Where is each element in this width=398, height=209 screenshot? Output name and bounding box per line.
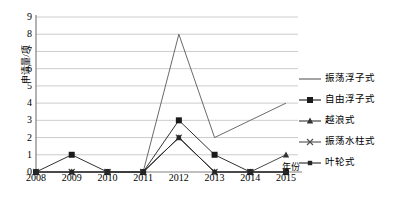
x-tick-label: 2015 <box>269 172 303 184</box>
x-tick-label: 2013 <box>198 172 232 184</box>
x-tick-label: 2010 <box>90 172 124 184</box>
legend-label: 自由浮子式 <box>322 91 375 105</box>
data-point-marker <box>308 160 312 164</box>
legend-label: 叶轮式 <box>322 154 355 168</box>
series-2 <box>33 117 289 175</box>
series-line <box>36 120 286 172</box>
legend: 振荡浮子式自由浮子式越浪式振荡水柱式叶轮式 <box>298 66 398 171</box>
x-tick-label: 2008 <box>19 172 53 184</box>
legend-label: 振荡水柱式 <box>322 133 375 147</box>
x-tick-label: 2014 <box>233 172 267 184</box>
legend-marker-icon <box>298 134 322 146</box>
x-tick-label: 2012 <box>162 172 196 184</box>
x-tick-label: 2009 <box>55 172 89 184</box>
legend-label: 越浪式 <box>322 112 355 126</box>
legend-item[interactable]: 振荡水柱式 <box>298 129 398 150</box>
legend-item[interactable]: 自由浮子式 <box>298 87 398 108</box>
data-point-marker <box>69 152 75 158</box>
legend-label: 振荡浮子式 <box>322 70 375 84</box>
data-point-marker <box>212 152 218 158</box>
data-point-marker <box>177 135 181 139</box>
legend-item[interactable]: 叶轮式 <box>298 150 398 171</box>
data-point-marker <box>307 97 313 103</box>
x-tick-label: 2011 <box>126 172 160 184</box>
legend-marker-icon <box>298 113 322 125</box>
legend-marker-icon <box>298 92 322 104</box>
wave-energy-patent-line-chart: 申请量/项 0123456789 20082009201020112012201… <box>0 0 398 209</box>
legend-item[interactable]: 越浪式 <box>298 108 398 129</box>
data-point-marker <box>176 117 182 123</box>
legend-marker-icon <box>298 155 322 167</box>
legend-item[interactable]: 振荡浮子式 <box>298 66 398 87</box>
x-axis-tick-labels: 20082009201020112012201320142015 <box>0 172 398 188</box>
legend-marker-icon <box>298 71 322 83</box>
